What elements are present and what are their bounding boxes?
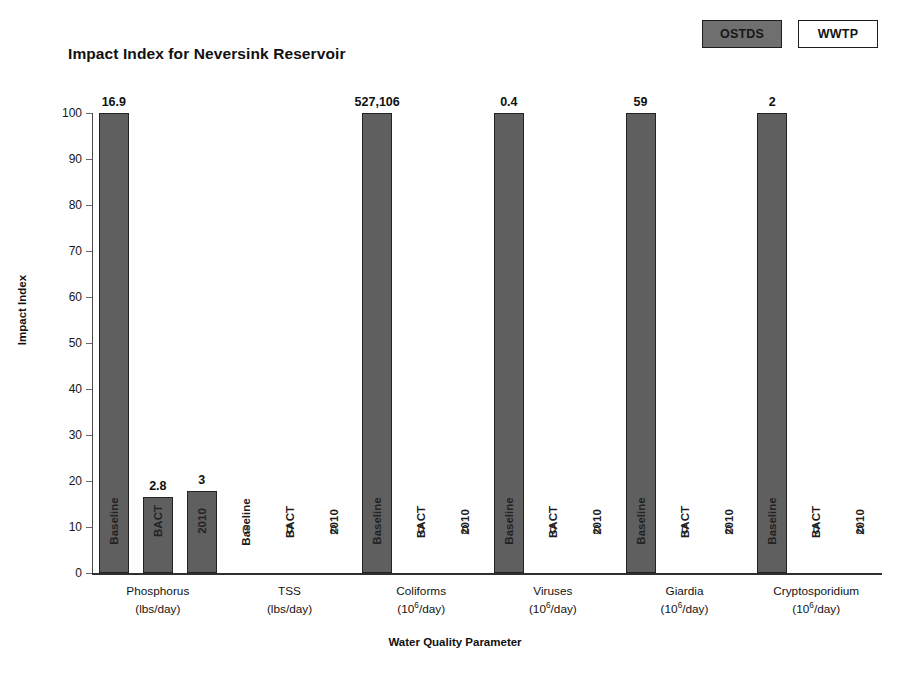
bar-slot-tss-2010: 20100: [319, 113, 349, 573]
x-category-unit: (106/day): [750, 600, 882, 618]
bar-zero-value-label: 0: [594, 523, 601, 537]
x-category-tss: TSS(lbs/day): [224, 582, 356, 619]
x-category-phosphorus: Phosphorus(lbs/day): [92, 582, 224, 619]
bar-slot-tss-bact: BACT0: [275, 113, 305, 573]
x-category-coliforms: Coliforms(106/day): [355, 582, 487, 619]
x-axis-category-labels: Phosphorus(lbs/day)TSS(lbs/day)Coliforms…: [92, 582, 882, 619]
bar-group-giardia: 59BaselineBACT020100: [619, 113, 751, 573]
bar-group-phosphorus: 16.9Baseline2.8BACT32010: [92, 113, 224, 573]
bar-value-label: 0.4: [500, 95, 517, 109]
bar[interactable]: Baseline: [362, 113, 392, 573]
bar-slot-giardia-baseline: 59Baseline: [626, 113, 656, 573]
bar-zero-value-label: 0: [330, 523, 337, 537]
bar-slot-phosphorus-baseline: 16.9Baseline: [99, 113, 129, 573]
x-category-name: Viruses: [533, 584, 572, 598]
x-category-unit: (106/day): [355, 600, 487, 618]
series-name-label: BACT: [152, 505, 164, 537]
bar-value-label: 3: [198, 473, 205, 487]
bar-zero-value-label: 0: [242, 523, 249, 537]
x-category-unit: (106/day): [487, 600, 619, 618]
legend-swatch-wwtp: WWTP: [798, 20, 878, 48]
x-category-name: Giardia: [666, 584, 704, 598]
y-axis-title: Impact Index: [16, 275, 28, 345]
bar-slot-viruses-2010: 20100: [582, 113, 612, 573]
series-name-label: Baseline: [108, 497, 120, 544]
y-tick-label: 40: [69, 382, 82, 396]
chart-title: Impact Index for Neversink Reservoir: [68, 45, 346, 63]
y-tick-label: 100: [62, 106, 82, 120]
bar-zero-value-label: 0: [681, 523, 688, 537]
y-tick-label: 70: [69, 244, 82, 258]
x-category-name: Cryptosporidium: [773, 584, 859, 598]
y-tick-label: 50: [69, 336, 82, 350]
bar-slot-tss-baseline: Baseline0: [231, 113, 261, 573]
bar-zero-value-label: 0: [286, 523, 293, 537]
series-name-label: 2010: [196, 508, 208, 534]
legend-item-ostds[interactable]: OSTDS: [702, 20, 782, 48]
bar-slot-cryptosporidium-baseline: 2Baseline: [757, 113, 787, 573]
y-tick-label: 60: [69, 290, 82, 304]
bar-slot-coliforms-baseline: 527,106Baseline: [362, 113, 392, 573]
x-axis-line: [92, 573, 882, 575]
y-tick-label: 20: [69, 474, 82, 488]
x-category-cryptosporidium: Cryptosporidium(106/day): [750, 582, 882, 619]
bar-zero-value-label: 0: [462, 523, 469, 537]
bar-value-label: 2: [769, 95, 776, 109]
series-name-label: Baseline: [635, 497, 647, 544]
bar[interactable]: Baseline: [626, 113, 656, 573]
bar-zero-value-label: 0: [857, 523, 864, 537]
x-category-giardia: Giardia(106/day): [619, 582, 751, 619]
bar[interactable]: 2010: [187, 491, 217, 573]
bar-group-viruses: 0.4BaselineBACT020100: [487, 113, 619, 573]
x-category-unit: (106/day): [619, 600, 751, 618]
series-name-label: Baseline: [240, 498, 252, 545]
series-name-label: Baseline: [766, 497, 778, 544]
bar-zero-value-label: 0: [550, 523, 557, 537]
bar-groups: 16.9Baseline2.8BACT32010Baseline0BACT020…: [92, 113, 882, 573]
bar-zero-value-label: 0: [725, 523, 732, 537]
y-tick-label: 0: [75, 566, 82, 580]
x-category-viruses: Viruses(106/day): [487, 582, 619, 619]
bar-group-coliforms: 527,106BaselineBACT020100: [355, 113, 487, 573]
series-name-label: Baseline: [503, 497, 515, 544]
bar-slot-cryptosporidium-bact: BACT0: [801, 113, 831, 573]
series-name-label: Baseline: [371, 497, 383, 544]
y-tick-label: 90: [69, 152, 82, 166]
bar-zero-value-label: 0: [813, 523, 820, 537]
y-tick-label: 30: [69, 428, 82, 442]
y-tick-label: 80: [69, 198, 82, 212]
bar-slot-viruses-bact: BACT0: [538, 113, 568, 573]
legend-item-wwtp[interactable]: WWTP: [798, 20, 878, 48]
bar[interactable]: Baseline: [757, 113, 787, 573]
bar-slot-viruses-baseline: 0.4Baseline: [494, 113, 524, 573]
bar-slot-phosphorus-2010: 32010: [187, 113, 217, 573]
bar-value-label: 2.8: [149, 479, 166, 493]
y-tick-label: 10: [69, 520, 82, 534]
x-axis-title: Water Quality Parameter: [0, 636, 910, 648]
bar-slot-coliforms-bact: BACT0: [406, 113, 436, 573]
x-category-name: TSS: [278, 584, 301, 598]
bar-slot-giardia-bact: BACT0: [670, 113, 700, 573]
plot-area: 1009080706050403020100 16.9Baseline2.8BA…: [92, 113, 882, 573]
bar-slot-giardia-2010: 20100: [714, 113, 744, 573]
y-tick-mark: [86, 573, 92, 574]
x-category-name: Phosphorus: [126, 584, 189, 598]
chart-root: OSTDSWWTP Impact Index for Neversink Res…: [0, 0, 910, 680]
legend-swatch-ostds: OSTDS: [702, 20, 782, 48]
bar-value-label: 16.9: [102, 95, 126, 109]
bar-slot-cryptosporidium-2010: 20100: [845, 113, 875, 573]
bar-group-tss: Baseline0BACT020100: [224, 113, 356, 573]
bar[interactable]: BACT: [143, 497, 173, 573]
chart-legend: OSTDSWWTP: [702, 20, 878, 48]
x-category-name: Coliforms: [396, 584, 446, 598]
bar-value-label: 527,106: [355, 95, 400, 109]
bar[interactable]: Baseline: [494, 113, 524, 573]
bar-slot-coliforms-2010: 20100: [450, 113, 480, 573]
bar-group-cryptosporidium: 2BaselineBACT020100: [750, 113, 882, 573]
x-category-unit: (lbs/day): [224, 600, 356, 618]
bar[interactable]: Baseline: [99, 113, 129, 573]
bar-zero-value-label: 0: [418, 523, 425, 537]
bar-value-label: 59: [634, 95, 648, 109]
x-category-unit: (lbs/day): [92, 600, 224, 618]
bar-slot-phosphorus-bact: 2.8BACT: [143, 113, 173, 573]
